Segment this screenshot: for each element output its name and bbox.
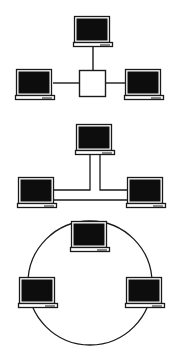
laptop-icon bbox=[126, 278, 165, 308]
laptop-icon bbox=[19, 278, 58, 308]
bus-drop-left bbox=[53, 155, 90, 190]
laptop-icon bbox=[74, 17, 113, 47]
laptop-icon bbox=[16, 70, 55, 100]
ring-topology: Ring topology bbox=[19, 221, 165, 345]
bus-topology: Bus topology bbox=[18, 125, 166, 208]
star-topology: Star topology bbox=[16, 17, 164, 100]
laptop-icon bbox=[71, 222, 110, 252]
laptop-icon bbox=[127, 178, 166, 208]
laptop-icon bbox=[76, 125, 115, 155]
bus-drop-right bbox=[100, 155, 128, 190]
laptop-icon bbox=[125, 70, 164, 100]
hub-icon bbox=[80, 71, 106, 97]
network-topology-diagram: Star topology Bus topology Ring topology bbox=[0, 0, 180, 353]
laptop-icon bbox=[18, 178, 57, 208]
